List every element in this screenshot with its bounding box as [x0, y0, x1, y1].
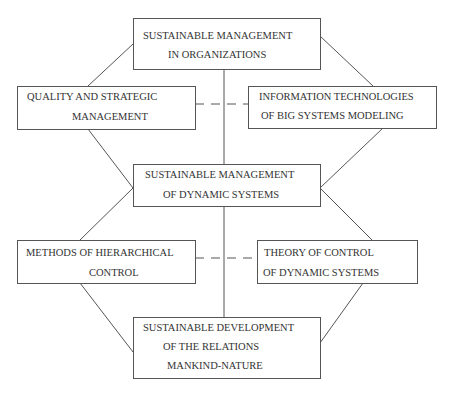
node-theory-control-dynamic-systems: THEORY OF CONTROL OF DYNAMIC SYSTEMS [257, 240, 418, 284]
node-text-line: OF THE RELATIONS [163, 337, 259, 357]
node-text-line: SUSTAINABLE DEVELOPMENT [143, 318, 294, 338]
node-text-line: THEORY OF CONTROL [264, 243, 374, 263]
connector-theory-bottom [320, 283, 363, 343]
connector-quality-center [88, 129, 133, 188]
node-text-line: IN ORGANIZATIONS [168, 45, 266, 65]
connector-top-info [320, 36, 373, 86]
node-sustainable-management-organizations: SUSTAINABLE MANAGEMENT IN ORGANIZATIONS [133, 18, 321, 70]
connector-center-theory [320, 188, 372, 240]
node-text-line: OF DYNAMIC SYSTEMS [163, 185, 279, 205]
node-methods-hierarchical-control: METHODS OF HIERARCHICAL CONTROL [17, 240, 196, 284]
node-information-technologies: INFORMATION TECHNOLOGIES OF BIG SYSTEMS … [248, 86, 437, 129]
connector-top-quality [88, 44, 133, 86]
node-sustainable-management-dynamic-systems: SUSTAINABLE MANAGEMENT OF DYNAMIC SYSTEM… [133, 164, 321, 207]
diagram-canvas: SUSTAINABLE MANAGEMENT IN ORGANIZATIONS … [0, 0, 449, 399]
connector-info-center [320, 128, 383, 188]
connector-methods-bottom [80, 283, 133, 352]
node-quality-strategic-management: QUALITY AND STRATEGIC MANAGEMENT [17, 86, 196, 130]
node-text-line: INFORMATION TECHNOLOGIES [259, 87, 414, 107]
node-sustainable-development-mankind-nature: SUSTAINABLE DEVELOPMENT OF THE RELATIONS… [133, 317, 321, 379]
node-text-line: METHODS OF HIERARCHICAL [26, 243, 174, 263]
node-text-line: SUSTAINABLE MANAGEMENT [143, 26, 292, 46]
node-text-line: MANKIND-NATURE [167, 356, 263, 376]
node-text-line: QUALITY AND STRATEGIC [27, 87, 157, 107]
node-text-line: MANAGEMENT [72, 107, 148, 127]
node-text-line: SUSTAINABLE MANAGEMENT [145, 165, 294, 185]
connector-center-methods [80, 188, 133, 240]
node-text-line: CONTROL [89, 263, 139, 283]
node-text-line: OF DYNAMIC SYSTEMS [263, 263, 379, 283]
node-text-line: OF BIG SYSTEMS MODELING [261, 106, 404, 126]
